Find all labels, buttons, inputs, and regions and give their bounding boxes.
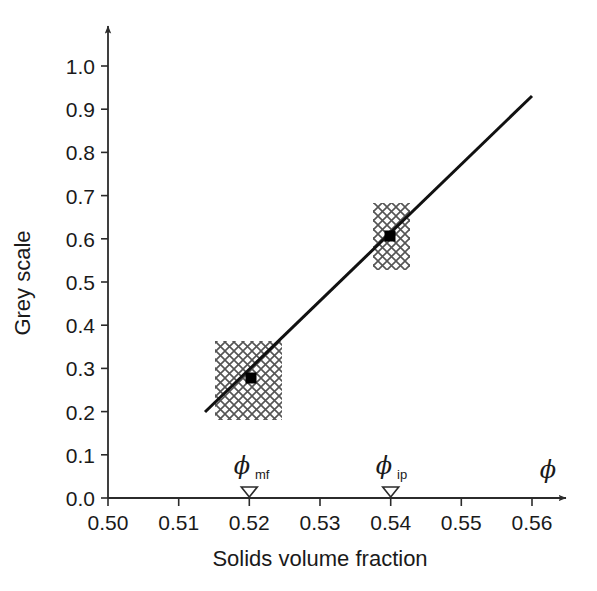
y-tick-label: 0.6 <box>66 228 95 251</box>
y-tick-label: 0.7 <box>66 185 95 208</box>
grey-scale-vs-solids-volume-fraction-chart: 0.0 0.1 0.2 0.3 0.4 0.5 0.6 0.7 0.8 0.9 … <box>0 0 597 591</box>
y-tick-label: 0.3 <box>66 357 95 380</box>
y-tick-label: 0.9 <box>66 98 95 121</box>
x-axis: 0.50 0.51 0.52 0.53 0.54 0.55 0.56 Solid… <box>88 456 566 571</box>
y-tick-label: 0.0 <box>66 487 95 510</box>
calibration-line-series <box>205 96 532 412</box>
x-tick-labels: 0.50 0.51 0.52 0.53 0.54 0.55 0.56 <box>88 511 553 534</box>
uncertainty-boxes <box>215 203 410 420</box>
x-tick-label: 0.51 <box>158 511 199 534</box>
phi-ip-subscript: ip <box>397 467 407 482</box>
y-tick-label: 1.0 <box>66 55 95 78</box>
phi-mf-subscript: mf <box>255 467 270 482</box>
axis-marker-phi-mf: ϕ mf <box>234 452 270 497</box>
chart-figure: 0.0 0.1 0.2 0.3 0.4 0.5 0.6 0.7 0.8 0.9 … <box>0 0 597 591</box>
y-tick-marks <box>101 66 108 498</box>
y-axis: 0.0 0.1 0.2 0.3 0.4 0.5 0.6 0.7 0.8 0.9 … <box>10 26 108 510</box>
x-axis-title: Solids volume fraction <box>212 546 427 571</box>
y-tick-label: 0.2 <box>66 401 95 424</box>
phi-axis-symbol: ϕ <box>540 456 556 484</box>
x-tick-label: 0.52 <box>229 511 270 534</box>
calibration-line <box>205 96 532 412</box>
phi-ip-triangle-marker-icon <box>383 487 399 497</box>
y-tick-label: 0.1 <box>66 444 95 467</box>
y-tick-labels: 0.0 0.1 0.2 0.3 0.4 0.5 0.6 0.7 0.8 0.9 … <box>66 55 96 510</box>
phi-mf-symbol: ϕ <box>234 452 250 480</box>
y-tick-label: 0.8 <box>66 141 95 164</box>
x-tick-label: 0.56 <box>512 511 553 534</box>
y-axis-title: Grey scale <box>10 230 35 335</box>
x-tick-marks <box>108 498 532 506</box>
x-tick-label: 0.50 <box>88 511 129 534</box>
y-tick-label: 0.4 <box>66 314 96 337</box>
x-tick-label: 0.53 <box>300 511 341 534</box>
data-point-marker <box>246 373 257 384</box>
phi-ip-symbol: ϕ <box>376 452 392 480</box>
x-tick-label: 0.55 <box>441 511 482 534</box>
x-tick-label: 0.54 <box>370 511 411 534</box>
phi-mf-triangle-marker-icon <box>241 487 257 497</box>
y-tick-label: 0.5 <box>66 271 95 294</box>
data-point-marker <box>385 231 396 242</box>
axis-marker-phi-ip: ϕ ip <box>376 452 407 497</box>
